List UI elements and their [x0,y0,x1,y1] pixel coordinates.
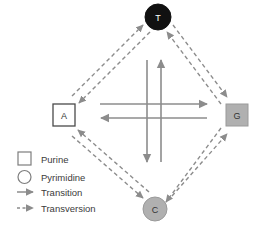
node-c-label: C [152,205,159,215]
legend-item-purine: Purine [18,152,68,165]
node-g-label: G [233,111,240,121]
legend-item-pyrimidine: Pyrimidine [18,171,85,184]
legend-label-transition: Transition [41,187,82,198]
purine-square-icon [18,152,31,165]
node-t[interactable]: T [145,4,171,30]
legend-label-purine: Purine [41,154,68,165]
legend-label-transversion: Transversion [41,203,96,214]
substitution-diagram: T A G C Purine Pyrimidine Transition Tra… [0,0,265,232]
node-g[interactable]: G [226,104,248,126]
node-a[interactable]: A [53,104,75,126]
legend-label-pyrimidine: Pyrimidine [41,172,85,183]
pyrimidine-circle-icon [18,171,31,184]
node-a-label: A [61,111,67,121]
node-t-label: T [155,13,161,23]
node-c[interactable]: C [143,197,167,221]
